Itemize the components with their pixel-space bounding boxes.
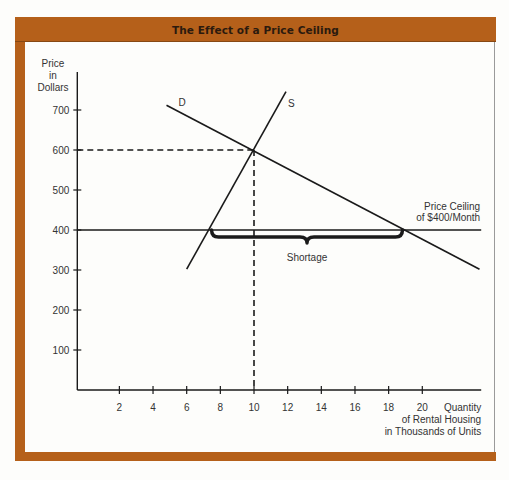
x-tick-label: 14 [316, 402, 328, 413]
supply-label: S [288, 98, 295, 109]
y-tick-label: 600 [53, 145, 70, 156]
y-tick-label: 500 [53, 185, 70, 196]
shortage-brace [212, 230, 403, 243]
y-axis-label: Price [42, 58, 65, 69]
x-axis-label: Quantity [444, 402, 481, 413]
y-tick-label: 400 [53, 225, 70, 236]
y-tick-label: 300 [53, 265, 70, 276]
demand-curve [166, 105, 479, 269]
x-tick-label: 12 [282, 402, 294, 413]
price-ceiling-label-line2: of $400/Month [416, 212, 480, 223]
y-tick-label: 100 [53, 345, 70, 356]
y-axis-label: Dollars [37, 82, 68, 93]
shortage-label: Shortage [287, 252, 328, 263]
price-ceiling-chart: DSShortagePrice Ceilingof $400/Month1002… [0, 0, 509, 480]
x-tick-label: 2 [117, 402, 123, 413]
x-tick-label: 8 [218, 402, 224, 413]
x-tick-label: 20 [417, 402, 429, 413]
x-axis-label: in Thousands of Units [385, 426, 482, 437]
price-ceiling-label-line1: Price Ceiling [424, 201, 480, 212]
x-tick-label: 6 [184, 402, 190, 413]
x-tick-label: 18 [383, 402, 395, 413]
x-tick-label: 16 [349, 402, 361, 413]
demand-label: D [178, 97, 185, 108]
supply-curve [187, 92, 286, 270]
y-tick-label: 700 [53, 105, 70, 116]
x-tick-label: 10 [248, 402, 260, 413]
x-axis-label: of Rental Housing [402, 414, 482, 425]
y-tick-label: 200 [53, 305, 70, 316]
x-tick-label: 4 [150, 402, 156, 413]
y-axis-label: in [49, 70, 57, 81]
